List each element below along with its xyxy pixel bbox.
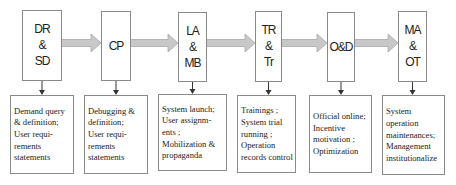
stage-label-line: TR [262,23,277,37]
flow-arrow-1 [61,34,101,52]
description-box-6: Systemoperationmaintenances;Managementin… [383,96,445,175]
down-connector-1 [39,81,45,95]
description-line: definition; [88,117,124,127]
description-line: System launch; [162,104,215,114]
arrowhead-down-icon [113,90,119,95]
description-line: motivation ; [313,134,355,144]
down-connector-3 [190,82,196,94]
stage-label-line: LA [186,24,200,38]
description-line: User requi- [88,129,127,139]
arrowhead-down-icon [410,90,416,95]
description-line: rements [88,141,116,151]
description-boxes: Demand query& definition;User requi-reme… [11,95,445,175]
description-line: System trial [241,117,283,127]
description-box-1: Demand query& definition;User requi-reme… [11,96,74,174]
description-box-4: Trainings ;System trialrunning ;Operatio… [238,96,296,173]
description-line: & definition; [14,117,59,127]
stage-label-line: MB [185,56,202,70]
down-connector-2 [113,81,119,95]
flow-arrow-5 [354,34,398,52]
down-connector-5 [338,82,344,95]
stage-label-line: DR [34,22,51,36]
description-line: Mobilization & [162,139,216,149]
stage-label-line: Tr [264,55,274,69]
description-line: User requi- [14,129,53,139]
flow-arrow-4 [281,34,327,52]
stage-box-5: O&D [328,13,355,82]
flow-arrow-2 [130,34,178,52]
arrowhead-down-icon [39,90,45,95]
description-line: Trainings ; [241,105,278,115]
stage-box-1: DR&SD [23,11,62,81]
stage-label-line: & [189,40,197,54]
description-line: Operation [241,140,276,150]
description-line: statements [88,152,125,162]
description-line: maintenances; [386,130,435,140]
stage-label-line: CP [109,39,125,53]
arrowhead-down-icon [190,89,196,94]
stage-label-line: OT [405,55,421,69]
description-line: institutionalize [386,153,437,163]
stage-label-line: & [265,39,273,53]
description-line: Optimization [313,146,359,156]
stage-box-6: MA&OT [399,12,427,82]
arrowhead-down-icon [266,90,272,95]
description-line: Incentive [313,123,345,133]
description-line: User assignm- [162,115,212,125]
arrowhead-down-icon [338,90,344,95]
stage-label-line: O&D [329,40,353,54]
description-box-5: Official online;Incentivemotivation ;Opt… [310,96,372,173]
description-line: propaganda [162,150,202,160]
description-line: Demand query [14,106,66,116]
description-line: Debugging & [88,106,135,116]
description-line: ents ; [162,127,180,137]
stage-box-4: TR&Tr [256,12,282,82]
description-line: statements [14,152,51,162]
stage-label-line: & [38,38,46,52]
description-line: Management [386,141,431,151]
description-line: Official online; [313,111,366,121]
stage-box-2: CP [102,12,131,81]
down-connector-6 [410,82,416,95]
description-line: records control [241,152,293,162]
stage-box-3: LA&MB [179,13,207,82]
stage-label-line: MA [405,23,422,37]
stage-flow-diagram: DR&SDCPLA&MBTR&TrO&DMA&OT Demand query& … [0,0,456,185]
stage-label-line: & [409,39,417,53]
down-connector-4 [266,82,272,95]
down-connectors [39,81,416,95]
description-line: running ; [241,129,272,139]
description-box-3: System launch;User assignm-ents ;Mobiliz… [159,95,227,171]
flow-arrow-3 [206,34,255,52]
description-line: operation [386,118,419,128]
description-line: rements [14,141,42,151]
description-box-2: Debugging &definition;User requi-rements… [85,96,148,174]
stage-label-line: SD [35,54,51,68]
description-line: System [386,106,412,116]
